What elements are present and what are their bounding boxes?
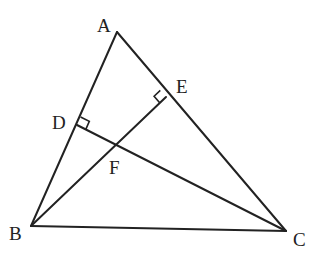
label-b: B <box>9 223 22 244</box>
triangle-diagram: A B C D E F <box>0 0 325 260</box>
label-f: F <box>109 157 120 178</box>
segment-ab <box>31 32 117 226</box>
segment-cd <box>77 125 286 231</box>
right-angle-mark-e <box>154 90 160 103</box>
label-a: A <box>97 15 111 36</box>
segment-ca <box>117 32 286 231</box>
label-e: E <box>176 76 188 97</box>
label-d: D <box>52 112 66 133</box>
segment-bc <box>31 226 286 231</box>
label-c: C <box>293 229 306 250</box>
